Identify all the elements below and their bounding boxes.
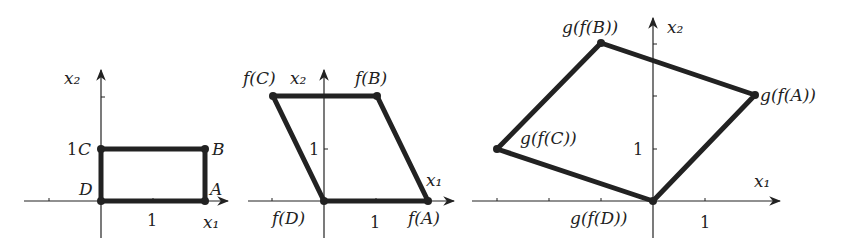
label-fa: f(A): [406, 208, 440, 228]
x-tick-label: 1: [147, 211, 157, 230]
panel-original: x₂ x₁ 1 1 C B D A: [24, 68, 228, 238]
label-gfc: g(f(C)): [520, 128, 577, 148]
point-fa: [424, 197, 432, 205]
label-fb: f(B): [353, 68, 387, 88]
transformation-diagram: x₂ x₁ 1 1 C B D A x₂ x₁ 1 1 f(C) f(B) f(…: [0, 0, 851, 242]
point-gfb: [597, 39, 605, 47]
point-fb: [373, 92, 381, 100]
point-b: [201, 145, 209, 153]
point-gfc: [493, 145, 501, 153]
label-gfa: g(f(A)): [760, 85, 816, 105]
label-fd: f(D): [270, 208, 305, 228]
point-d: [97, 197, 105, 205]
y-axis-label: x₂: [64, 68, 81, 88]
rectangle-abcd: [101, 149, 205, 201]
x-axis-label: x₁: [203, 212, 219, 232]
y-tick-label: 1: [633, 140, 643, 159]
label-b: B: [211, 139, 225, 159]
y-axis-label: x₂: [290, 68, 307, 88]
y-tick-label: 1: [67, 140, 77, 159]
label-gfd: g(f(D)): [570, 208, 627, 228]
x-axis-label: x₁: [426, 170, 442, 190]
panel-after-f: x₂ x₁ 1 1 f(C) f(B) f(D) f(A): [241, 68, 454, 238]
quadrilateral-gf: [497, 43, 755, 201]
point-gfd: [649, 197, 657, 205]
panel-after-g-of-f: x₂ x₁ 1 1 g(f(B)) g(f(A)) g(f(C)) g(f(D)…: [472, 17, 816, 238]
label-fc: f(C): [241, 68, 276, 88]
x-tick-label: 1: [700, 213, 710, 232]
point-fc: [269, 92, 277, 100]
point-fd: [320, 197, 328, 205]
label-a: A: [208, 179, 222, 199]
y-tick-label: 1: [309, 140, 319, 159]
label-gfb: g(f(B)): [562, 17, 618, 37]
x-tick-label: 1: [370, 213, 380, 232]
label-c: C: [78, 139, 91, 159]
y-axis-label: x₂: [667, 17, 684, 37]
x-axis-label: x₁: [754, 171, 770, 191]
point-c: [97, 145, 105, 153]
parallelogram-f: [273, 96, 428, 201]
point-gfa: [751, 91, 759, 99]
point-a: [201, 197, 209, 205]
label-d: D: [78, 179, 93, 199]
